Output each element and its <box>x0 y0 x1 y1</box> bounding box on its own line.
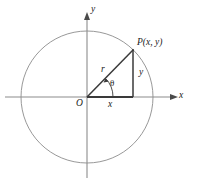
y-axis-label: y <box>91 5 95 15</box>
vertical-leg-label: y <box>139 68 143 78</box>
point-p-marker <box>132 49 134 51</box>
trigonometry-diagram: x y O P(x, y) r y x θ <box>0 0 200 183</box>
origin-label: O <box>76 99 83 109</box>
x-axis-label: x <box>179 91 183 101</box>
radius-hypotenuse-segment <box>87 50 133 97</box>
point-p-label: P(x, y) <box>137 38 162 48</box>
diagram-canvas <box>0 0 200 183</box>
horizontal-leg-label: x <box>108 100 112 110</box>
y-axis-arrowhead <box>84 12 90 20</box>
x-axis-arrowhead <box>170 94 178 100</box>
theta-label: θ <box>110 79 114 88</box>
radius-label: r <box>101 65 105 75</box>
